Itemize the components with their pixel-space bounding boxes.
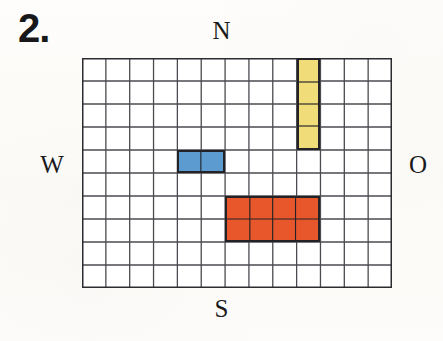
- yellow-rectangle[interactable]: [297, 58, 321, 150]
- compass-label-north: N: [0, 18, 443, 43]
- red-rectangle[interactable]: [225, 196, 320, 242]
- shape-layer: [82, 58, 392, 288]
- worksheet-page: 2. N W O S: [0, 0, 443, 341]
- blue-rectangle[interactable]: [177, 150, 225, 173]
- coordinate-grid[interactable]: [82, 58, 392, 288]
- compass-label-west: W: [32, 152, 72, 177]
- compass-label-east: O: [398, 152, 438, 177]
- compass-label-south: S: [0, 296, 443, 321]
